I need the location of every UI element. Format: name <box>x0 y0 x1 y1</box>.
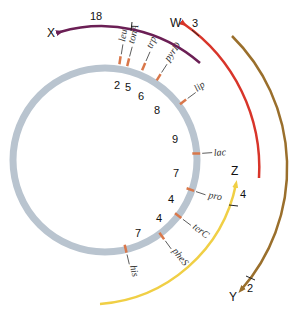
origin-label-z: Z <box>231 164 238 178</box>
gene-label-his: his <box>128 264 141 278</box>
gene-label-pheS: pheS <box>170 245 191 268</box>
interval-pro-terC: 4 <box>168 193 174 205</box>
chromosome-ring <box>13 68 197 252</box>
gene-label-terC: terC <box>191 221 212 241</box>
marker-leu <box>119 56 120 64</box>
interval-lip-lac: 9 <box>172 133 178 145</box>
marker-pyrD <box>157 74 161 80</box>
gene-label-tonA: tonA <box>125 23 140 45</box>
origin-label-x: X <box>47 26 55 40</box>
origin-label-y: Y <box>229 290 237 304</box>
marker-his <box>125 245 127 253</box>
marker-lip <box>180 100 186 105</box>
interval-terC-pheS: 4 <box>156 212 162 224</box>
origin-label-w: W <box>170 16 182 30</box>
marker-tonA <box>127 58 129 66</box>
gene-label-lip: lip <box>192 79 207 94</box>
interval-pyrD-lip: 8 <box>154 104 160 116</box>
distance-x: 18 <box>90 10 102 22</box>
distance-y: 2 <box>247 282 253 294</box>
interval-lac-pro: 7 <box>173 167 179 179</box>
interval-pheS-his: 7 <box>135 227 141 239</box>
genetic-map: leu tonA trp pyrD lip lac pro terC pheS … <box>0 0 294 324</box>
gene-label-lac: lac <box>213 146 227 158</box>
interval-leu-tonA: 2 <box>114 79 120 91</box>
distance-z: 4 <box>240 188 246 200</box>
interval-tonA-trp: 5 <box>125 81 131 93</box>
marker-trp <box>142 63 145 70</box>
interval-trp-pyrD: 6 <box>138 90 144 102</box>
gene-label-pro: pro <box>207 189 223 202</box>
tick-w <box>192 30 199 36</box>
distance-w: 3 <box>192 17 198 29</box>
